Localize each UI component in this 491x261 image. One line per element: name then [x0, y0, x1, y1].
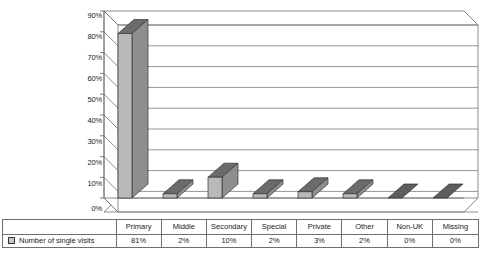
header-spacer-cell — [3, 220, 117, 234]
column-header-primary: Primary — [117, 220, 162, 234]
table-value-row: Number of single visits 81% 2% 10% 2% 3%… — [2, 234, 479, 249]
value-cell-secondary: 10% — [207, 235, 252, 248]
value-cell-primary: 81% — [117, 235, 162, 248]
y-axis-ticks — [100, 11, 104, 198]
legend-entry: Number of single visits — [3, 235, 117, 248]
value-cell-missing: 0% — [433, 235, 478, 248]
value-cell-special: 2% — [252, 235, 297, 248]
column-header-middle: Middle — [162, 220, 207, 234]
value-cell-non-uk: 0% — [388, 235, 433, 248]
bar-primary — [118, 20, 148, 199]
value-cell-middle: 2% — [162, 235, 207, 248]
column-header-special: Special — [252, 220, 297, 234]
legend-label: Number of single visits — [19, 236, 94, 245]
plot-floor — [104, 198, 478, 212]
column-header-secondary: Secondary — [207, 220, 252, 234]
plot-left-wall — [104, 11, 118, 212]
column-header-non-uk: Non-UK — [388, 220, 433, 234]
column-header-other: Other — [342, 220, 387, 234]
data-table: Primary Middle Secondary Special Private… — [2, 219, 479, 248]
column-header-private: Private — [297, 220, 342, 234]
chart-3d-column: 90% 80% 70% 60% 50% 40% 30% 20% 10% 0% — [0, 0, 491, 261]
table-header-row: Primary Middle Secondary Special Private… — [2, 219, 479, 234]
legend-swatch-icon — [8, 237, 15, 244]
column-header-missing: Missing — [433, 220, 478, 234]
value-cell-private: 3% — [297, 235, 342, 248]
plot-ceiling — [104, 11, 478, 25]
plot-back-wall — [118, 25, 478, 212]
value-cell-other: 2% — [342, 235, 387, 248]
